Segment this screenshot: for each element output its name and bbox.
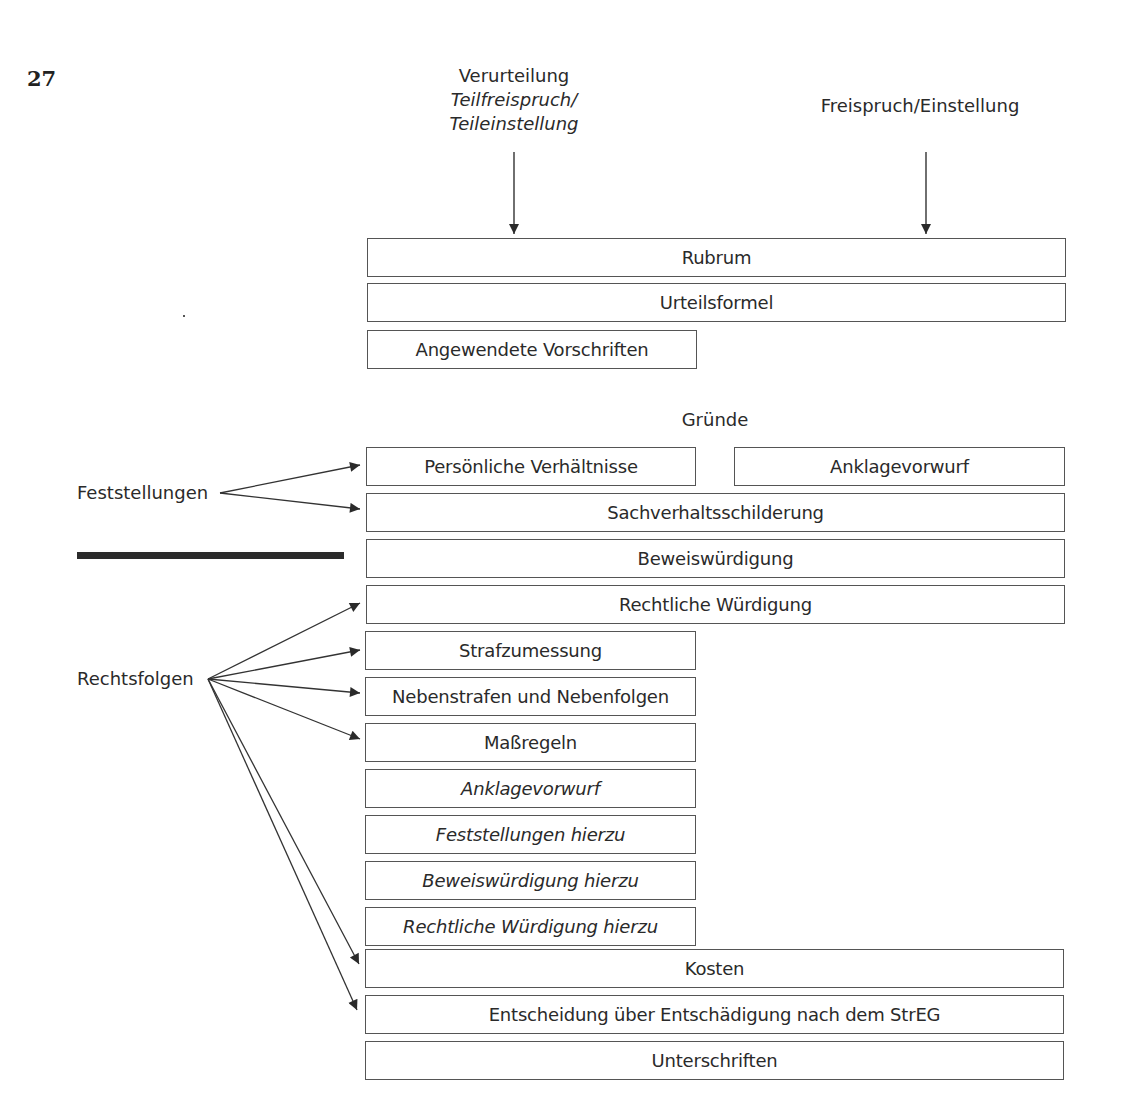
arrow-rechtsfolgen-strafzumessung	[208, 650, 360, 679]
box-persoenliche-verhaeltnisse: Persönliche Verhältnisse	[366, 447, 696, 486]
box-rubrum: Rubrum	[367, 238, 1066, 277]
box-beweiswuerdigung-hierzu: Beweiswürdigung hierzu	[365, 861, 696, 900]
arrow-feststellungen-sachverhalt	[220, 493, 360, 509]
box-massregeln: Maßregeln	[365, 723, 696, 762]
arrow-rechtsfolgen-kosten	[208, 679, 359, 964]
heading-gruende: Gründe	[615, 409, 815, 430]
box-anklagevorwurf-teil: Anklagevorwurf	[365, 769, 696, 808]
box-rechtliche-wuerdigung-hierzu: Rechtliche Würdigung hierzu	[365, 907, 696, 946]
label-feststellungen: Feststellungen	[77, 482, 208, 503]
arrow-rechtsfolgen-nebenstrafen	[208, 679, 360, 693]
box-sachverhaltsschilderung: Sachverhaltsschilderung	[366, 493, 1065, 532]
arrow-rechtsfolgen-rechtliche	[208, 603, 360, 679]
box-rechtliche-wuerdigung: Rechtliche Würdigung	[366, 585, 1065, 624]
box-nebenstrafen-nebenfolgen: Nebenstrafen und Nebenfolgen	[365, 677, 696, 716]
box-unterschriften: Unterschriften	[365, 1041, 1064, 1080]
box-entscheidung-streg: Entscheidung über Entschädigung nach dem…	[365, 995, 1064, 1034]
separator-bar	[77, 552, 344, 559]
box-angewendete-vorschriften: Angewendete Vorschriften	[367, 330, 697, 369]
box-urteilsformel: Urteilsformel	[367, 283, 1066, 322]
box-strafzumessung: Strafzumessung	[365, 631, 696, 670]
box-feststellungen-hierzu: Feststellungen hierzu	[365, 815, 696, 854]
box-anklagevorwurf: Anklagevorwurf	[734, 447, 1065, 486]
arrow-feststellungen-persoenlich	[220, 465, 360, 493]
box-kosten: Kosten	[365, 949, 1064, 988]
label-rechtsfolgen: Rechtsfolgen	[77, 668, 194, 689]
box-beweiswuerdigung: Beweiswürdigung	[366, 539, 1065, 578]
speck-mark	[183, 315, 185, 317]
